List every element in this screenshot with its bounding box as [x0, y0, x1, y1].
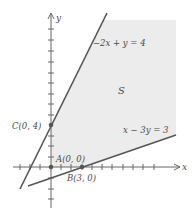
lower-line-equation: x − 3y = 3: [123, 125, 168, 135]
point-a: [49, 165, 54, 170]
y-axis-label: y: [55, 13, 62, 23]
point-b: [80, 165, 85, 170]
point-a-label: A(0, 0): [55, 154, 85, 164]
x-axis: [13, 164, 180, 170]
point-b-label: B(3, 0): [66, 173, 96, 183]
upper-line-equation: −2x + y = 4: [93, 38, 146, 48]
x-axis-label: x: [182, 162, 187, 172]
point-c-label: C(0, 4): [12, 121, 41, 131]
feasible-region-diagram: y x S −2x + y = 4 x − 3y = 3 C(0, 4) A(0…: [0, 0, 194, 217]
region-label: S: [118, 85, 125, 96]
point-c: [49, 123, 54, 128]
